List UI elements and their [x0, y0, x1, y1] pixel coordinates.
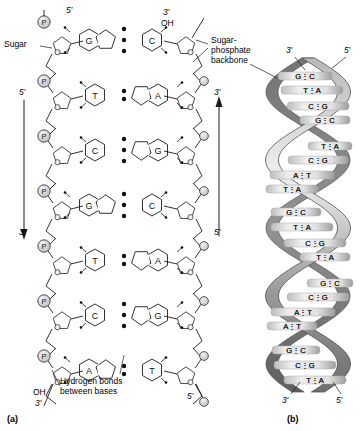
svg-text:T⋮A: T⋮A — [316, 253, 335, 262]
helix-bottom-left-prime: 3′ — [282, 396, 288, 406]
svg-text:C⋮G: C⋮G — [295, 361, 314, 370]
svg-text:G⋮C: G⋮C — [320, 279, 340, 288]
svg-text:C⋮G: C⋮G — [308, 102, 327, 111]
svg-text:A⋮T: A⋮T — [283, 322, 301, 331]
helix-top-right-prime: 5′ — [344, 46, 350, 56]
dna-double-helix: G⋮CT⋮AC⋮GG⋮CT⋮AC⋮GA⋮TT⋮AG⋮CT⋮AC⋮GT⋮AG⋮CC… — [0, 0, 364, 431]
svg-text:G⋮C: G⋮C — [286, 208, 306, 217]
svg-text:T⋮A: T⋮A — [293, 223, 312, 232]
svg-text:A⋮T: A⋮T — [293, 171, 311, 180]
panel-b-tag: (b) — [287, 414, 299, 424]
svg-text:T⋮A: T⋮A — [306, 376, 325, 385]
helix-bottom-right-prime: 5′ — [336, 396, 342, 406]
svg-text:A⋮T: A⋮T — [294, 308, 312, 317]
svg-text:C⋮G: C⋮G — [308, 156, 327, 165]
svg-text:G⋮C: G⋮C — [315, 116, 335, 125]
svg-text:G⋮C: G⋮C — [295, 72, 315, 81]
svg-text:C⋮G: C⋮G — [308, 293, 327, 302]
svg-text:T⋮A: T⋮A — [283, 185, 302, 194]
svg-text:C⋮G: C⋮G — [305, 239, 324, 248]
svg-text:T⋮A: T⋮A — [303, 86, 322, 95]
helix-top-left-prime: 3′ — [286, 46, 292, 56]
svg-text:T⋮A: T⋮A — [321, 142, 340, 151]
svg-text:G⋮C: G⋮C — [286, 346, 306, 355]
